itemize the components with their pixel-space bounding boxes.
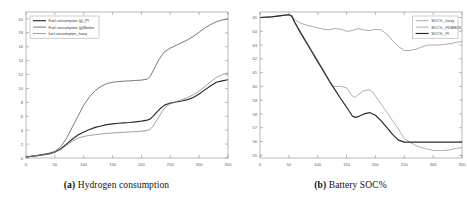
x-tick-label: 100 xyxy=(314,162,322,167)
y-tick-label: 8 xyxy=(21,100,24,105)
legend-label-1: Fuel consumption (g)Menke xyxy=(49,26,95,30)
y-tick-label: 60 xyxy=(252,84,257,89)
x-tick-label: 350 xyxy=(459,162,467,167)
caption-b-text: Battery SOC% xyxy=(329,180,387,190)
legend-label-2: SOC% _PI xyxy=(431,32,449,36)
y-tick-label: 16 xyxy=(18,44,23,49)
hydrogen-consumption-plot: 05010015020025030035002468101214161820Fu… xyxy=(0,0,233,178)
y-tick-label: 0 xyxy=(21,156,24,161)
legend-label-0: Fuel consumption (g)_PI xyxy=(49,19,89,23)
caption-a-text: Hydrogen consumption xyxy=(78,180,169,190)
chart-panel-battery-soc: 0501001502002503003505556575859606162636… xyxy=(234,0,467,178)
y-tick-label: 10 xyxy=(18,86,23,91)
y-tick-label: 56 xyxy=(252,139,257,144)
y-tick-label: 14 xyxy=(18,58,23,63)
caption-figure-b: (b) Battery SOC% xyxy=(234,180,467,190)
legend-label-1: SOC% _FDBMCS xyxy=(431,26,461,30)
y-tick-label: 6 xyxy=(21,114,24,119)
chart-panel-hydrogen-consumption: 05010015020025030035002468101214161820Fu… xyxy=(0,0,233,178)
y-tick-label: 59 xyxy=(252,98,257,103)
y-tick-label: 63 xyxy=(252,43,257,48)
series-line-2 xyxy=(26,73,228,157)
x-tick-label: 50 xyxy=(53,162,58,167)
chart-legend: Fuel consumption (g)_PIFuel consumption … xyxy=(30,16,99,38)
x-tick-label: 300 xyxy=(196,162,204,167)
x-tick-label: 150 xyxy=(109,162,117,167)
x-tick-label: 200 xyxy=(372,162,380,167)
x-tick-label: 250 xyxy=(167,162,175,167)
y-tick-label: 18 xyxy=(18,30,23,35)
y-tick-label: 62 xyxy=(252,56,257,61)
x-tick-label: 300 xyxy=(430,162,438,167)
x-tick-label: 350 xyxy=(225,162,233,167)
y-tick-label: 55 xyxy=(252,153,257,158)
figure-container: 05010015020025030035002468101214161820Fu… xyxy=(0,0,467,205)
legend-label-2: fuel consumption_fuzzy xyxy=(49,32,88,36)
y-tick-label: 20 xyxy=(18,17,23,22)
y-tick-label: 58 xyxy=(252,112,257,117)
caption-a-prefix: (a) xyxy=(64,180,75,190)
series-line-1 xyxy=(26,19,228,157)
y-tick-label: 61 xyxy=(252,70,257,75)
series-line-0 xyxy=(26,80,228,157)
y-tick-label: 57 xyxy=(252,125,257,130)
caption-figure-a: (a) Hydrogen consumption xyxy=(0,180,233,190)
x-tick-label: 100 xyxy=(80,162,88,167)
battery-soc-plot: 0501001502002503003505556575859606162636… xyxy=(234,0,467,178)
x-tick-label: 50 xyxy=(287,162,292,167)
x-tick-label: 250 xyxy=(401,162,409,167)
caption-b-prefix: (b) xyxy=(314,180,326,190)
legend-label-0: SOC% _fuzzy xyxy=(431,19,454,23)
x-tick-label: 150 xyxy=(343,162,351,167)
x-tick-label: 0 xyxy=(259,162,262,167)
x-tick-label: 200 xyxy=(138,162,146,167)
x-tick-label: 0 xyxy=(25,162,28,167)
y-tick-label: 12 xyxy=(18,72,23,77)
chart-legend: SOC% _fuzzySOC% _FDBMCSSOC% _PI xyxy=(413,16,462,38)
y-tick-label: 64 xyxy=(252,29,257,34)
y-tick-label: 2 xyxy=(21,142,24,147)
y-tick-label: 4 xyxy=(21,128,24,133)
y-tick-label: 65 xyxy=(252,15,257,20)
